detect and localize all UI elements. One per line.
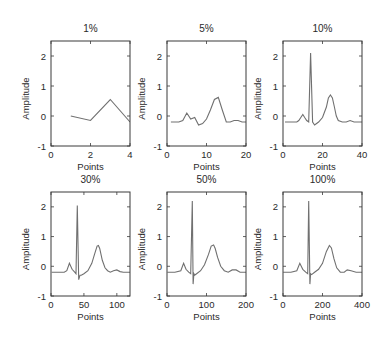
y-tick-label: 0 [157, 111, 162, 122]
x-tick-label: 0 [280, 299, 285, 310]
x-axis-label: Points [77, 311, 104, 322]
ecg-subplot-figure: 1%-1012024PointsAmplitude5%-101201020Poi… [0, 0, 387, 347]
axes-box [283, 192, 362, 296]
y-tick-label: 1 [41, 231, 46, 242]
subplot-title: 50% [196, 174, 216, 185]
x-axis-label: Points [193, 311, 220, 322]
subplot-title: 100% [310, 174, 336, 185]
subplot-5pct: 5%-101201020PointsAmplitude [136, 23, 251, 172]
subplot-30pct: 30%-1012050100PointsAmplitude [20, 174, 130, 322]
x-axis-label: Points [193, 161, 220, 172]
y-tick-label: -1 [270, 141, 278, 152]
subplot-50pct: 50%-10120100200PointsAmplitude [136, 174, 254, 322]
y-tick-label: 2 [41, 51, 46, 62]
y-tick-label: 0 [273, 261, 278, 272]
axes-box [283, 41, 362, 146]
x-tick-label: 10 [201, 149, 212, 160]
x-axis-label: Points [77, 161, 104, 172]
y-tick-label: -1 [154, 141, 162, 152]
x-tick-label: 2 [88, 149, 93, 160]
axes-box [51, 192, 130, 296]
subplot-1pct: 1%-1012024PointsAmplitude [20, 23, 133, 172]
subplot-100pct: 100%-10120200400PointsAmplitude [252, 174, 370, 322]
y-tick-label: 1 [157, 231, 162, 242]
y-axis-label: Amplitude [136, 77, 147, 119]
x-tick-label: 400 [354, 299, 370, 310]
y-axis-label: Amplitude [20, 77, 31, 119]
axes-box [51, 41, 130, 146]
subplot-title: 10% [312, 23, 332, 34]
y-tick-label: 2 [273, 201, 278, 212]
subplot-10pct: 10%-101202040PointsAmplitude [252, 23, 367, 172]
x-tick-label: 4 [127, 149, 132, 160]
x-tick-label: 40 [357, 149, 368, 160]
subplot-title: 30% [80, 174, 100, 185]
x-tick-label: 100 [109, 299, 125, 310]
y-axis-label: Amplitude [252, 228, 263, 270]
y-tick-label: -1 [270, 291, 278, 302]
ecg-signal-line [71, 100, 130, 123]
subplot-title: 5% [199, 23, 214, 34]
x-tick-label: 0 [280, 149, 285, 160]
y-tick-label: 0 [157, 261, 162, 272]
y-tick-label: 2 [157, 201, 162, 212]
x-axis-label: Points [309, 311, 336, 322]
y-tick-label: -1 [38, 291, 46, 302]
ecg-signal-line [171, 97, 246, 125]
x-tick-label: 50 [79, 299, 90, 310]
y-tick-label: 2 [273, 51, 278, 62]
subplot-title: 1% [83, 23, 98, 34]
y-tick-label: 1 [157, 81, 162, 92]
y-tick-label: 2 [41, 201, 46, 212]
y-tick-label: 0 [41, 111, 46, 122]
x-tick-label: 0 [164, 299, 169, 310]
y-tick-label: -1 [154, 291, 162, 302]
x-tick-label: 0 [164, 149, 169, 160]
x-tick-label: 200 [238, 299, 254, 310]
axes-box [167, 192, 246, 296]
y-tick-label: 2 [157, 51, 162, 62]
y-axis-label: Amplitude [136, 228, 147, 270]
x-tick-label: 0 [48, 149, 53, 160]
x-tick-label: 100 [199, 299, 215, 310]
ecg-signal-line [283, 201, 362, 284]
x-axis-label: Points [309, 161, 336, 172]
y-tick-label: 1 [41, 81, 46, 92]
axes-box [167, 41, 246, 146]
x-tick-label: 20 [241, 149, 252, 160]
x-tick-label: 200 [315, 299, 331, 310]
y-axis-label: Amplitude [252, 77, 263, 119]
y-tick-label: 0 [41, 261, 46, 272]
x-tick-label: 0 [48, 299, 53, 310]
y-tick-label: -1 [38, 141, 46, 152]
y-tick-label: 1 [273, 81, 278, 92]
y-tick-label: 0 [273, 111, 278, 122]
x-tick-label: 20 [317, 149, 328, 160]
y-axis-label: Amplitude [20, 228, 31, 270]
ecg-signal-line [52, 205, 130, 279]
ecg-signal-line [285, 53, 362, 125]
ecg-signal-line [167, 201, 246, 284]
y-tick-label: 1 [273, 231, 278, 242]
